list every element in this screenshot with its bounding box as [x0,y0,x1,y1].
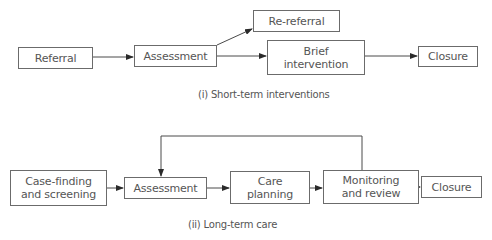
node-label: Referral [35,52,77,65]
node-label-line2: planning [247,188,293,201]
node-label-line1: Case-finding [25,175,91,188]
node-closure-long-term: Closure [421,176,482,198]
node-label-line2: intervention [284,58,349,71]
node-brief-intervention: Brief intervention [267,40,365,75]
node-label-line1: Monitoring [343,174,400,187]
care-pathway-diagram: Referral Assessment Re-referral Brief in… [0,0,492,240]
node-label: Closure [428,50,468,63]
node-monitoring-and-review: Monitoring and review [323,170,419,204]
node-re-referral: Re-referral [253,10,340,32]
caption-long-term: (ii) Long-term care [188,219,277,230]
node-label-line1: Care [258,175,283,188]
node-label: Assessment [134,182,198,195]
node-label: Closure [432,181,472,194]
caption-short-term: (i) Short-term interventions [198,89,330,100]
node-label: Assessment [144,50,208,63]
node-label-line1: Brief [304,45,329,58]
node-label: Re-referral [268,15,324,28]
node-label-line2: and review [342,187,401,200]
node-assessment-long-term: Assessment [124,177,207,199]
arrow-assessment-to-re-referral [217,29,252,45]
node-referral: Referral [18,47,93,69]
node-case-finding-and-screening: Case-finding and screening [10,170,107,206]
node-closure-short-term: Closure [418,46,478,67]
node-care-planning: Care planning [230,171,310,204]
node-label-line2: and screening [21,188,96,201]
node-assessment-short-term: Assessment [134,45,217,67]
